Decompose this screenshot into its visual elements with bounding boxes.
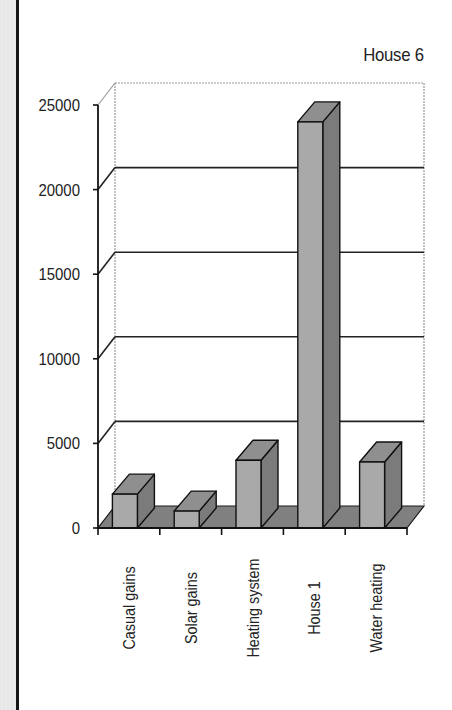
bar-water-heating [360,442,402,528]
bar-house-1 [298,102,340,528]
x-axis: Casual gainsSolar gainsHeating systemHou… [98,528,407,658]
y-tick-label: 0 [72,519,80,537]
y-tick-label: 25000 [38,96,80,114]
gridline-connector [98,337,115,359]
y-tick-label: 10000 [38,350,80,368]
y-tick-label: 5000 [47,435,80,453]
x-category-label: Casual gains [120,566,138,650]
bar-front-face [236,460,261,528]
wall-corner-edge [98,83,115,105]
x-category-label: House 1 [306,581,324,635]
bar-front-face [360,462,385,528]
gridline-connector [98,252,115,274]
y-tick-label: 20000 [38,181,80,199]
bar-front-face [174,511,199,528]
y-tick-label: 15000 [38,265,80,283]
bar-side-face [323,102,340,528]
bar-front-face [298,122,323,528]
x-category-label: Heating system [244,558,262,657]
chart-gridlines [98,168,424,444]
gridline-connector [98,168,115,190]
gridline-connector [98,421,115,443]
x-category-label: Water heating [367,563,385,652]
y-axis: 0500010000150002000025000 [38,96,98,537]
chart-bars [112,102,401,528]
bar-front-face [112,494,137,528]
x-category-label: Solar gains [182,572,200,644]
bar-chart-3d: 0500010000150002000025000 Casual gainsSo… [0,0,452,710]
bar-heating-system [236,440,278,528]
